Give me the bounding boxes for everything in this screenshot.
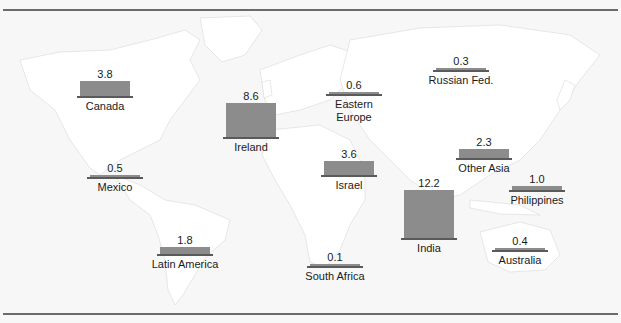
value-label: 0.1 [327,251,342,263]
bar-other-asia [459,149,509,158]
region-label: Eastern [335,98,373,110]
island-uk [262,80,272,98]
bar-base-line [223,137,279,139]
map-chart: 3.8Canada8.6Ireland0.6EasternEurope0.3Ru… [0,0,621,323]
bar-base-line [401,238,457,240]
value-label: 0.5 [107,162,122,174]
value-label: 3.6 [341,148,356,160]
value-label: 2.3 [476,136,491,148]
value-label: 3.8 [97,68,112,80]
region-label: Australia [499,254,542,266]
bar-israel [324,161,374,175]
bar-india [404,190,454,238]
bar-base-line [456,158,512,160]
value-label: 0.6 [346,79,361,91]
region-label: Israel [336,179,363,191]
region-label: Canada [86,100,125,112]
region-label: Ireland [234,141,268,153]
region-label: South Africa [305,270,364,282]
bar-base-line [157,254,213,256]
bar-base-line [321,175,377,177]
region-label: Europe [336,111,371,123]
bar-base-line [492,250,548,252]
region-label: Mexico [98,181,133,193]
continent-greenland [200,16,262,62]
bottom-rule [3,313,618,315]
region-label: Other Asia [458,162,509,174]
value-label: 8.6 [243,90,258,102]
region-label: Russian Fed. [429,74,494,86]
bar-ireland [226,103,276,137]
bar-base-line [87,177,143,179]
bar-canada [80,81,130,96]
bar-base-line [307,266,363,268]
value-label: 0.3 [453,55,468,67]
continent-south-america [115,175,230,305]
value-label: 12.2 [418,177,439,189]
value-label: 1.0 [529,173,544,185]
bar-base-line [77,96,133,98]
bar-latin-america [160,247,210,254]
value-label: 0.4 [512,235,527,247]
bar-base-line [509,190,565,192]
region-label: Philippines [510,194,563,206]
continent-africa [262,125,365,268]
region-label: Latin America [152,258,219,270]
bar-base-line [326,94,382,96]
bar-base-line [433,70,489,72]
value-label: 1.8 [177,234,192,246]
region-label: India [417,242,441,254]
